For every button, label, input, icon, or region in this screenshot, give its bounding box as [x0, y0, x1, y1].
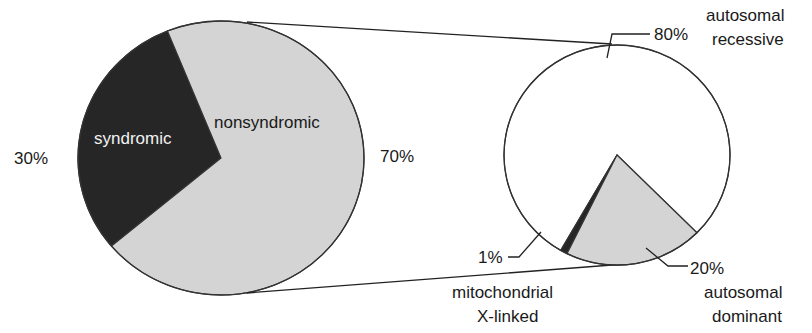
value-label-autosomal-recessive: 80% — [654, 25, 688, 44]
pie-of-pie-chart: syndromic nonsyndromic 30% 70% 80% autos… — [0, 0, 812, 333]
main-pie — [78, 21, 364, 295]
slice-label-autosomal-dominant-1: autosomal — [704, 283, 782, 302]
value-label-syndromic: 30% — [14, 149, 48, 168]
slice-label-syndromic: syndromic — [94, 129, 172, 148]
slice-label-mitochondrial-2: X-linked — [477, 307, 538, 326]
value-label-nonsyndromic: 70% — [380, 147, 414, 166]
leader-mitochondrial — [508, 232, 541, 257]
slice-label-autosomal-dominant-2: dominant — [712, 307, 782, 326]
value-label-autosomal-dominant: 20% — [690, 259, 724, 278]
value-label-mitochondrial: 1% — [478, 248, 503, 267]
slice-label-nonsyndromic: nonsyndromic — [214, 113, 320, 132]
breakdown-pie — [504, 45, 730, 265]
connector-top — [247, 22, 612, 44]
slice-label-mitochondrial-1: mitochondrial — [452, 283, 553, 302]
slice-label-autosomal-recessive-1: autosomal — [706, 6, 784, 25]
slice-label-autosomal-recessive-2: recessive — [712, 30, 784, 49]
